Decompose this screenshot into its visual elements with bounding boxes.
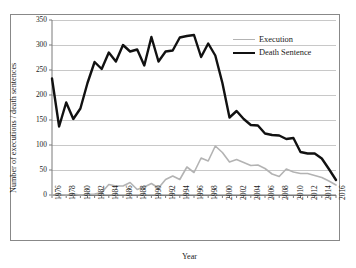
x-tick-label: 1978	[69, 185, 76, 200]
x-tick-label: 1984	[112, 185, 119, 200]
x-tick-label: 2006	[268, 185, 275, 200]
x-tick-label: 1986	[126, 185, 133, 200]
x-tick-label: 1988	[140, 185, 147, 200]
figure-container: 050100150200250300350 197619781980198219…	[0, 0, 356, 268]
y-axis-title: Number of executions / death sentences	[9, 63, 18, 193]
x-tick-label: 2014	[325, 185, 332, 200]
legend-label-execution: Execution	[259, 35, 293, 44]
x-tick-label: 2008	[282, 185, 289, 200]
legend-item-execution: Execution	[233, 33, 343, 46]
x-tick-label: 2004	[254, 185, 261, 200]
x-tick-label: 1998	[211, 185, 218, 200]
y-tick-label: 300	[21, 41, 47, 48]
x-tick-label: 1990	[155, 185, 162, 200]
x-axis-title: Year	[182, 252, 197, 261]
x-tick-label: 2000	[226, 185, 233, 200]
x-tick-label: 2016	[339, 185, 346, 200]
x-tick-label: 1980	[84, 185, 91, 200]
y-tick-label: 50	[21, 166, 47, 173]
x-tick-label: 2010	[297, 185, 304, 200]
x-tick-label: 1982	[98, 185, 105, 200]
legend-label-death-sentence: Death Sentence	[259, 48, 311, 57]
x-tick-label: 1996	[197, 185, 204, 200]
x-tick-label: 2012	[311, 185, 318, 200]
x-tick-label: 1992	[169, 185, 176, 200]
y-tick-label: 350	[21, 16, 47, 23]
legend-swatch-execution-icon	[233, 39, 255, 40]
legend-item-death-sentence: Death Sentence	[233, 46, 343, 59]
chart-frame: 050100150200250300350 197619781980198219…	[10, 14, 340, 241]
x-tick-label: 1976	[55, 185, 62, 200]
y-tick-label: 250	[21, 66, 47, 73]
x-tick-label: 1994	[183, 185, 190, 200]
x-tick-label: 2002	[240, 185, 247, 200]
legend-swatch-death-sentence-icon	[233, 52, 255, 54]
y-tick-label: 150	[21, 116, 47, 123]
y-tick-label: 0	[21, 191, 47, 198]
chart-legend: Execution Death Sentence	[233, 33, 343, 59]
y-tick-label: 100	[21, 141, 47, 148]
y-tick-label: 200	[21, 91, 47, 98]
